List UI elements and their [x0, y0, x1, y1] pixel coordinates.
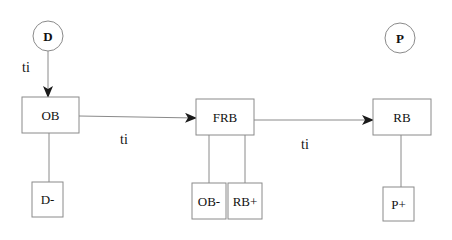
node-ob-label: OB — [41, 108, 59, 123]
node-p-plus-box: P+ — [383, 187, 414, 221]
node-rb-label: RB — [393, 110, 411, 125]
node-p-label: P — [396, 31, 404, 46]
node-ob-minus-label: OB- — [198, 194, 220, 209]
edge-ob-frb-label: ti — [120, 132, 128, 147]
edge-d-ob-label: ti — [22, 60, 30, 75]
node-p-circle: P — [385, 23, 415, 53]
node-p-plus-label: P+ — [391, 197, 406, 212]
edge-frb-to-rb: ti — [254, 120, 373, 152]
node-frb-label: FRB — [213, 110, 238, 125]
node-frb-box: FRB — [196, 99, 254, 135]
edge-frb-rb-label: ti — [301, 137, 309, 152]
node-d-minus-box: D- — [32, 182, 63, 217]
edge-ob-to-frb: ti — [79, 116, 196, 147]
node-d-circle: D — [33, 21, 63, 51]
edge-d-to-ob: ti — [22, 51, 48, 97]
node-rb-plus-label: RB+ — [233, 194, 258, 209]
node-rb-box: RB — [373, 99, 431, 135]
node-d-label: D — [43, 29, 52, 44]
node-d-minus-label: D- — [41, 192, 55, 207]
node-ob-box: OB — [22, 97, 79, 133]
node-ob-minus-box: OB- — [192, 183, 226, 219]
node-rb-plus-box: RB+ — [228, 183, 262, 219]
diagram-canvas: D P ti OB ti FRB ti RB D- — [0, 0, 452, 240]
